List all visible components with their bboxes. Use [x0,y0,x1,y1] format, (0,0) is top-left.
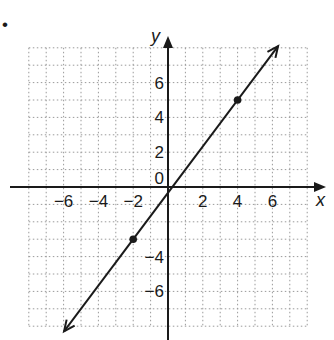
y-tick-label: 6 [155,74,164,93]
y-tick-label: −6 [145,282,164,301]
data-series [64,46,278,331]
y-axis-arrow-icon [163,36,173,48]
x-tick-label: 6 [268,192,277,211]
coordinate-plane: • x y −6−4−22466420−4−6 [0,0,334,340]
data-point [234,96,242,104]
x-tick-label: −2 [124,192,143,211]
y-tick-label: 2 [155,143,164,162]
y-tick-label: 4 [155,108,164,127]
y-tick-label: −4 [145,248,164,267]
x-tick-label: 4 [233,192,242,211]
x-tick-label: −6 [54,192,73,211]
axes: x y [10,26,326,340]
data-point [129,235,137,243]
plotted-line [64,46,278,331]
y-axis-label: y [149,26,161,46]
y-tick-label: 0 [155,169,164,188]
x-tick-label: 2 [198,192,207,211]
x-axis-label: x [315,190,326,210]
x-tick-label: −4 [89,192,108,211]
bullet-marker: • [2,15,8,34]
